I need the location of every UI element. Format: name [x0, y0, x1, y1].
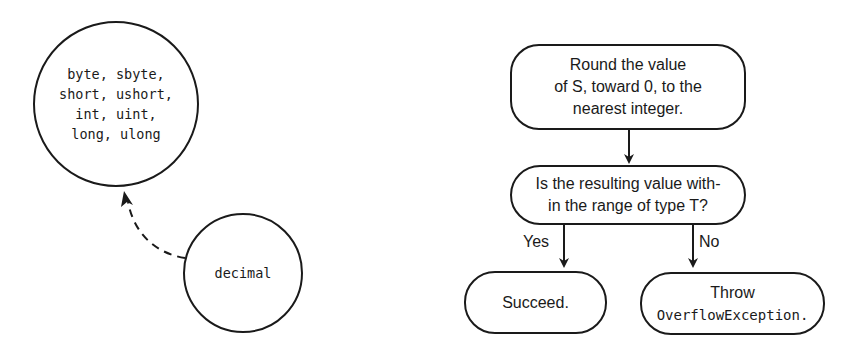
- arrowhead-icon: [121, 191, 133, 207]
- integral-types-line-3: int, uint,: [75, 104, 156, 124]
- round-step-line-1: Round the value: [570, 54, 687, 76]
- round-step-line-2: of S, toward 0, to the: [554, 76, 702, 98]
- decimal-node: decimal: [184, 214, 302, 332]
- decision-node: Is the resulting value with- in the rang…: [511, 166, 745, 224]
- throw-node: Throw OverflowException.: [641, 273, 824, 334]
- integral-types-line-1: byte, sbyte,: [67, 64, 165, 84]
- integral-types-line-2: short, ushort,: [59, 84, 173, 104]
- exception-name: OverflowException.: [657, 304, 809, 326]
- decimal-label: decimal: [215, 263, 272, 283]
- decision-line-2: in the range of type T?: [548, 195, 708, 217]
- throw-label: Throw: [710, 282, 754, 304]
- decision-line-1: Is the resulting value with-: [536, 173, 721, 195]
- round-step-line-3: nearest integer.: [573, 98, 683, 120]
- round-step-node: Round the value of S, toward 0, to the n…: [511, 45, 745, 129]
- succeed-label: Succeed.: [502, 292, 569, 314]
- integral-types-node: byte, sbyte, short, ushort, int, uint, l…: [34, 22, 198, 186]
- no-label: No: [699, 233, 719, 251]
- succeed-node: Succeed.: [465, 272, 606, 333]
- dashed-conversion-arrow: [128, 202, 185, 258]
- integral-types-line-4: long, ulong: [71, 124, 160, 144]
- yes-label: Yes: [523, 233, 549, 251]
